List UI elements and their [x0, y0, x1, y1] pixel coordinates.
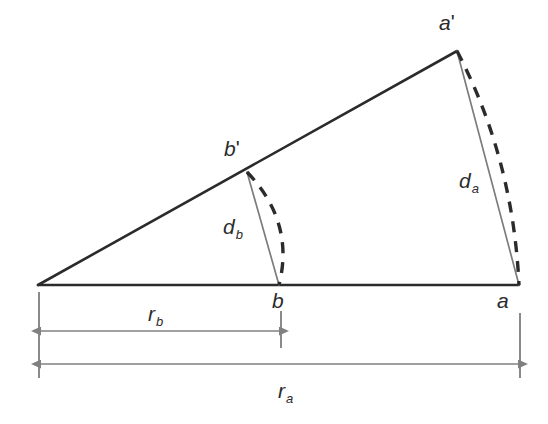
label-a-prime: a' — [439, 12, 455, 33]
hypotenuse-segment — [38, 51, 457, 285]
label-dimension-ra: ra — [278, 380, 292, 401]
label-db-sub: b — [236, 227, 243, 242]
chord-da-segment — [457, 51, 519, 285]
label-distance-da: da — [459, 170, 478, 191]
figure-root: a' b' a b da db rb ra — [0, 0, 548, 424]
label-distance-db: db — [223, 216, 242, 237]
label-dimension-rb: rb — [148, 303, 162, 324]
label-b-prime-mark: ' — [236, 136, 240, 159]
label-a-prime-mark: ' — [451, 10, 455, 33]
label-point-a: a — [497, 290, 509, 311]
label-a-prime-base: a — [439, 11, 451, 34]
diagram-canvas — [0, 0, 548, 424]
label-rb-sub: b — [156, 314, 163, 329]
label-point-b: b — [272, 290, 284, 311]
label-db-base: d — [223, 215, 235, 238]
label-rb-base: r — [148, 302, 155, 325]
label-da-base: d — [459, 169, 471, 192]
label-b-prime: b' — [224, 138, 240, 159]
label-b-prime-base: b — [224, 137, 236, 160]
label-ra-base: r — [278, 379, 285, 402]
label-ra-sub: a — [286, 391, 293, 406]
label-da-sub: a — [472, 181, 479, 196]
